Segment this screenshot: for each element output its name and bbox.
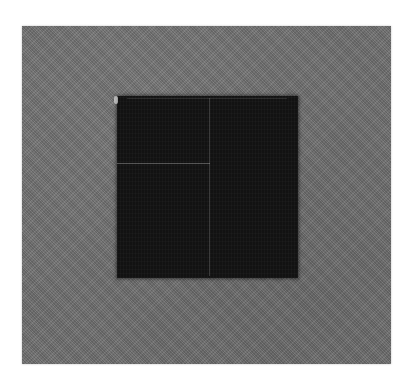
faint-horizontal-line: [117, 163, 210, 164]
corner-highlight: [114, 96, 118, 104]
faint-top-line: [127, 98, 287, 99]
faint-vertical-line: [209, 98, 210, 276]
dark-square-patch: [117, 96, 298, 278]
image-canvas: [0, 0, 410, 388]
